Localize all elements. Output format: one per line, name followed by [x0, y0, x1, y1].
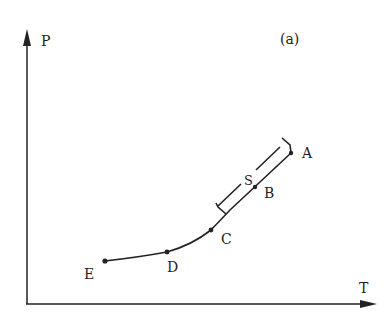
point-c [209, 228, 214, 233]
point-c-label: C [221, 231, 232, 247]
y-axis [23, 29, 31, 304]
segment-s-label: S [244, 173, 253, 188]
point-d [165, 250, 170, 255]
point-a-label: A [301, 145, 313, 161]
x-axis-label: T [359, 280, 369, 296]
point-a [289, 151, 293, 155]
segment-s-bracket [216, 138, 291, 214]
y-axis-label: P [41, 33, 50, 49]
coexistence-curve [105, 153, 291, 261]
panel-label: (a) [280, 31, 299, 47]
point-e-label: E [84, 266, 94, 282]
point-d-label: D [167, 259, 178, 275]
point-b-label: B [264, 185, 274, 201]
x-axis [26, 300, 377, 308]
point-b [253, 185, 257, 189]
x-axis-arrow-icon [360, 300, 377, 308]
y-axis-arrow-icon [23, 29, 31, 46]
phase-diagram: P T (a) S A B [0, 0, 391, 327]
point-e [102, 258, 107, 263]
